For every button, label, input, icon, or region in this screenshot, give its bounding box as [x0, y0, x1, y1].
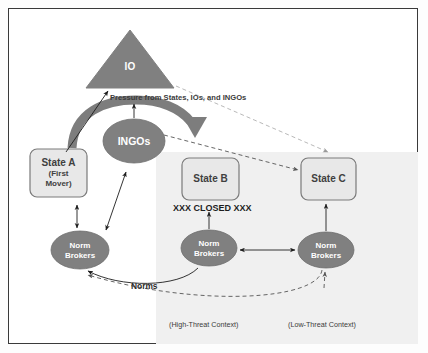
low-threat-context-label: (Low-Threat Context) [288, 320, 356, 329]
closed-annotation: XXX CLOSED XXX [173, 203, 252, 213]
io-triangle [86, 30, 174, 88]
high-threat-context-label: (High-Threat Context) [169, 320, 239, 329]
pressure-annotation: Pressure from States, IOs, and INGOs [110, 93, 246, 102]
norm-brokers-b-ellipse [181, 230, 237, 266]
norm-brokers-a-ellipse [51, 231, 109, 269]
state-b-box [182, 158, 239, 200]
norms-annotation: Norms [131, 281, 158, 291]
diagram-figure: IO INGOs State A (First Mover) State B S… [0, 0, 428, 353]
ingos-ellipse [103, 119, 165, 163]
state-c-box [301, 158, 356, 200]
diagram-canvas [0, 0, 428, 353]
state-a-box [30, 149, 87, 197]
arrow-state-a-to-io [66, 91, 108, 152]
norm-brokers-c-ellipse [298, 232, 354, 268]
arrow-norm-brokers-a-ingos [106, 172, 126, 230]
